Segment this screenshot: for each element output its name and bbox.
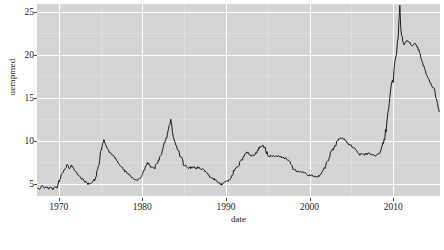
y-tick-label: 20 [8,50,34,60]
y-tick-label: 5 [8,179,34,189]
x-tick-label: 2000 [290,202,330,212]
plot-panel [37,4,440,196]
x-tick-label: 1970 [39,202,79,212]
x-tick-mark [59,198,60,201]
x-tick-mark [310,198,311,201]
x-tick-mark [142,198,143,201]
uempmed-line-series [37,4,440,196]
line-path [38,5,439,189]
y-tick-mark [34,184,37,185]
x-tick-label: 1980 [122,202,162,212]
x-axis-tick-labels: 19701980199020002010 [37,198,440,214]
chart-figure: uempmed 510152025 19701980199020002010 d… [0,0,444,250]
x-tick-label: 2010 [373,202,413,212]
y-tick-label: 10 [8,136,34,146]
x-axis-title: date [37,214,440,224]
y-tick-mark [34,98,37,99]
y-tick-mark [34,55,37,56]
x-tick-mark [393,198,394,201]
x-tick-mark [226,198,227,201]
y-tick-label: 25 [8,7,34,17]
y-tick-mark [34,141,37,142]
y-axis-tick-labels: 510152025 [8,0,34,250]
y-tick-label: 15 [8,93,34,103]
y-tick-mark [34,12,37,13]
x-tick-label: 1990 [206,202,246,212]
